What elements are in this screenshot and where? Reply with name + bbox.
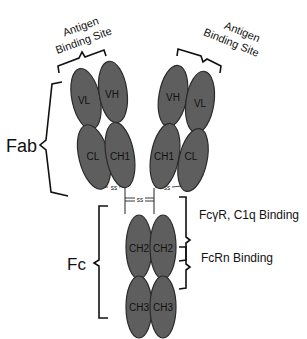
svg-text:CH1: CH1 — [154, 151, 174, 162]
fc-bracket — [94, 206, 108, 318]
svg-text:CL: CL — [185, 151, 198, 162]
antibody-diagram: Antigen Binding Site Antigen Binding Sit… — [0, 0, 307, 339]
svg-text:VL: VL — [78, 95, 91, 106]
svg-text:CH2: CH2 — [153, 243, 173, 254]
antigen-binding-site-label-right: Antigen Binding Site — [202, 13, 266, 59]
fc-label: Fc — [67, 255, 86, 274]
svg-text:CH2: CH2 — [129, 243, 149, 254]
svg-text:VL: VL — [194, 98, 207, 109]
svg-text:CL: CL — [87, 151, 100, 162]
fcgr-c1q-label: FcγR, C1q Binding — [199, 208, 299, 222]
svg-text:CH1: CH1 — [110, 151, 130, 162]
fab-bracket — [40, 82, 68, 196]
domain-left-ch2: CH2 — [126, 215, 152, 279]
fcgr-c1q-bracket — [179, 197, 190, 261]
svg-text:CH3: CH3 — [153, 302, 173, 313]
fcrn-label: FcRn Binding — [201, 251, 273, 265]
antigen-binding-site-label-left: Antigen Binding Site — [49, 11, 113, 56]
svg-text:CH3: CH3 — [129, 302, 149, 313]
hinge-disulfide: ss — [125, 196, 154, 203]
svg-text:VH: VH — [105, 89, 119, 100]
domain-right-ch2: CH2 — [150, 215, 176, 279]
domain-left-ch3: CH3 — [126, 276, 152, 338]
fab-label: Fab — [6, 136, 37, 156]
fcrn-bracket — [179, 247, 190, 289]
domain-right-ch3: CH3 — [150, 276, 176, 338]
left-ss-label: ss — [111, 184, 118, 191]
hinge-ss-label: ss — [137, 196, 144, 203]
svg-text:VH: VH — [166, 92, 180, 103]
